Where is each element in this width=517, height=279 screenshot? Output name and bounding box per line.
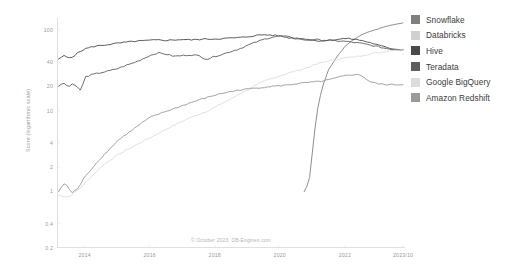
legend-item-google-bigquery[interactable]: Google BigQuery (411, 74, 517, 90)
y-tick-10: 10 (47, 108, 53, 114)
legend-label: Hive (426, 46, 443, 56)
legend-label: Databricks (426, 30, 466, 40)
legend-label: Snowflake (426, 15, 465, 25)
db-engines-ranking-chart: 1004020104210.40.2 Score (logarithmic sc… (0, 0, 517, 279)
x-tick-2022: 2022 (339, 252, 351, 258)
y-tick-1: 1 (50, 188, 53, 194)
legend-swatch-icon (411, 62, 420, 71)
series-line-hive (59, 35, 403, 59)
series-line-teradata (59, 36, 403, 90)
y-tick-100: 100 (44, 27, 53, 33)
y-tick-4: 4 (50, 140, 53, 146)
plot-canvas (57, 18, 405, 248)
legend-item-teradata[interactable]: Teradata (411, 59, 517, 75)
legend-label: Amazon Redshift (426, 93, 490, 103)
x-tick-2020: 2020 (274, 252, 286, 258)
y-axis-title: Score (logarithmic scale) (25, 89, 31, 152)
legend-item-snowflake[interactable]: Snowflake (411, 12, 517, 28)
legend-label: Google BigQuery (426, 77, 490, 87)
legend-swatch-icon (411, 31, 420, 40)
legend-label: Teradata (426, 62, 459, 72)
series-line-google-bigquery (59, 49, 403, 197)
y-tick-0.2: 0.2 (45, 245, 53, 251)
legend-swatch-icon (411, 15, 420, 24)
legend-swatch-icon (411, 93, 420, 102)
x-tick-2023-10: 2023/10 (393, 252, 413, 258)
series-line-amazon-redshift (59, 74, 403, 192)
legend-swatch-icon (411, 46, 420, 55)
chart-legend: SnowflakeDatabricksHiveTeradataGoogle Bi… (411, 12, 517, 106)
legend-item-databricks[interactable]: Databricks (411, 28, 517, 44)
y-tick-40: 40 (47, 59, 53, 65)
legend-item-amazon-redshift[interactable]: Amazon Redshift (411, 90, 517, 106)
x-tick-2016: 2016 (144, 252, 156, 258)
y-tick-2: 2 (50, 164, 53, 170)
x-tick-2018: 2018 (209, 252, 221, 258)
y-tick-20: 20 (47, 83, 53, 89)
chart-plot-region: 1004020104210.40.2 Score (logarithmic sc… (0, 0, 410, 279)
y-tick-0.4: 0.4 (45, 221, 53, 227)
series-lines-svg (57, 18, 405, 248)
legend-swatch-icon (411, 78, 420, 87)
legend-item-hive[interactable]: Hive (411, 43, 517, 59)
copyright-note: © October 2023, DB-Engines.com (57, 237, 405, 243)
x-tick-2014: 2014 (78, 252, 90, 258)
